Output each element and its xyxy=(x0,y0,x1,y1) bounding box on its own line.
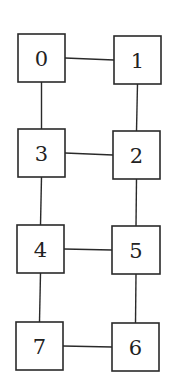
edge-3-4 xyxy=(41,177,42,225)
node-7: 7 xyxy=(16,322,63,370)
node-5: 5 xyxy=(112,226,160,274)
edge-3-2 xyxy=(65,153,113,155)
edge-2-5 xyxy=(136,179,137,226)
node-6: 6 xyxy=(112,323,159,371)
edge-7-6 xyxy=(63,346,112,347)
graph-diagram: 01324576 xyxy=(0,0,177,389)
node-3: 3 xyxy=(18,129,65,177)
edge-1-2 xyxy=(137,84,138,131)
node-label: 2 xyxy=(130,144,143,168)
node-4: 4 xyxy=(17,225,64,273)
edges xyxy=(40,58,138,347)
nodes: 01324576 xyxy=(16,34,161,371)
node-label: 7 xyxy=(33,335,46,359)
node-label: 6 xyxy=(129,336,142,360)
node-label: 3 xyxy=(35,142,48,166)
edge-0-1 xyxy=(65,58,114,60)
node-0: 0 xyxy=(18,34,65,82)
edge-4-7 xyxy=(40,273,41,322)
edge-5-6 xyxy=(136,274,137,323)
node-label: 1 xyxy=(131,49,144,73)
node-label: 5 xyxy=(129,239,142,263)
node-1: 1 xyxy=(114,36,161,84)
node-2: 2 xyxy=(113,131,160,179)
edge-4-5 xyxy=(64,249,112,250)
node-label: 4 xyxy=(34,238,47,262)
node-label: 0 xyxy=(35,47,48,71)
